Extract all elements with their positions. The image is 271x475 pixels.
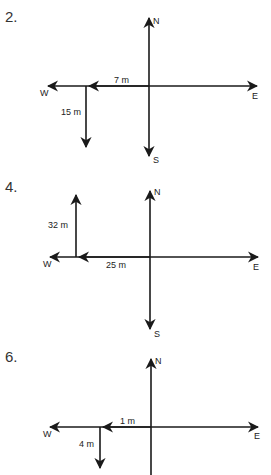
diagram-canvas: N S E W 7 m 15 m N S E W 25 m 32 m N E W… xyxy=(0,0,271,475)
vector-south-label: 4 m xyxy=(79,439,94,449)
vector-west-label: 25 m xyxy=(106,260,126,270)
vector-west-label: 1 m xyxy=(120,416,135,426)
label-w: W xyxy=(43,429,52,439)
vector-west-label: 7 m xyxy=(114,75,129,85)
problem-6-diagram: N E W 1 m 4 m xyxy=(43,356,260,475)
label-e: E xyxy=(254,431,260,441)
label-n: N xyxy=(153,16,160,26)
problem-4-number: 4. xyxy=(5,178,18,195)
label-n: N xyxy=(154,187,161,197)
label-e: E xyxy=(252,91,258,101)
vector-north-label: 32 m xyxy=(48,220,68,230)
problem-4-diagram: N S E W 25 m 32 m xyxy=(43,187,259,339)
problem-2-number: 2. xyxy=(5,8,18,25)
label-w: W xyxy=(43,259,52,269)
label-n: N xyxy=(155,356,162,366)
problem-2-diagram: N S E W 7 m 15 m xyxy=(40,16,258,165)
label-e: E xyxy=(253,262,259,272)
label-w: W xyxy=(40,88,49,98)
problem-6-number: 6. xyxy=(5,348,18,365)
label-s: S xyxy=(154,329,160,339)
vector-south-label: 15 m xyxy=(61,107,81,117)
label-s: S xyxy=(153,155,159,165)
